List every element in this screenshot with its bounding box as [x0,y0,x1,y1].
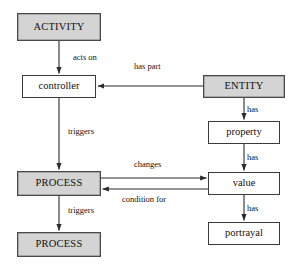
node-process-2[interactable]: PROCESS [17,232,101,257]
node-value-label: value [233,178,256,189]
node-entity[interactable]: ENTITY [203,75,285,98]
edge-label-condition-for: condition for [122,195,166,204]
edge-label-has-part: has part [134,62,161,71]
node-portrayal-label: portrayal [225,228,263,239]
node-property[interactable]: property [208,121,280,144]
edge-label-changes: changes [134,160,161,169]
node-process-1[interactable]: PROCESS [17,171,101,196]
node-value[interactable]: value [208,172,280,195]
edge-label-acts-on: acts on [73,53,97,62]
node-controller[interactable]: controller [22,75,96,98]
node-activity-label: ACTIVITY [33,22,84,33]
node-activity[interactable]: ACTIVITY [17,13,101,41]
edge-label-has-value-portrayal: has [247,204,258,213]
node-process-1-label: PROCESS [36,178,83,189]
node-controller-label: controller [39,81,80,92]
node-entity-label: ENTITY [224,81,263,92]
diagram-canvas: ACTIVITY controller ENTITY property PROC… [0,0,296,272]
edge-label-triggers-lower: triggers [68,206,94,215]
node-process-2-label: PROCESS [36,239,83,250]
node-property-label: property [226,127,262,138]
node-portrayal[interactable]: portrayal [208,222,280,245]
edge-label-triggers-upper: triggers [68,127,94,136]
edge-label-has-entity-property: has [247,105,258,114]
edge-label-has-property-value: has [247,153,258,162]
